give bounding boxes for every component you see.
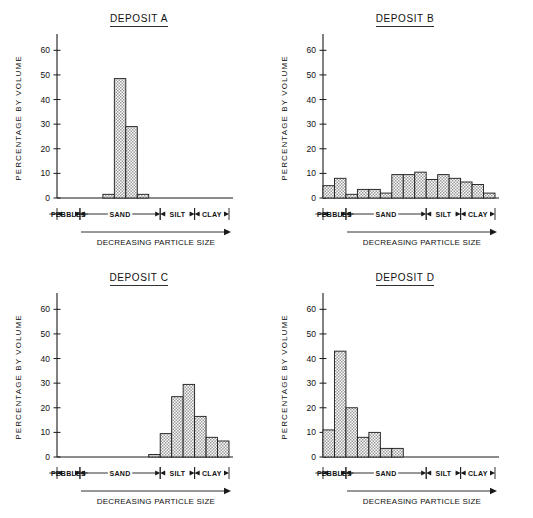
- bar: [461, 182, 472, 198]
- y-axis-tick-label: 10: [41, 168, 51, 178]
- decreasing-particle-size-arrow: [81, 488, 231, 494]
- category-label-silt: SILT: [169, 470, 185, 477]
- bar: [334, 351, 345, 457]
- chart-panel-deposit-d: DEPOSIT D0102030405060PERCENTAGE BY VOLU…: [266, 259, 532, 518]
- chart-svg: DEPOSIT B0102030405060PERCENTAGE BY VOLU…: [266, 0, 532, 259]
- bar: [334, 178, 345, 198]
- bar-series: [323, 172, 495, 198]
- category-label-silt: SILT: [169, 211, 185, 218]
- category-axis: PEBBLESSANDSILTCLAY: [315, 467, 495, 479]
- bar: [346, 194, 357, 198]
- chart-title: DEPOSIT C: [109, 272, 168, 283]
- y-axis-tick-label: 20: [41, 144, 51, 154]
- bar: [137, 194, 148, 198]
- chart-panel-deposit-c: DEPOSIT C0102030405060PERCENTAGE BY VOLU…: [0, 259, 266, 518]
- chart-title: DEPOSIT D: [375, 272, 434, 283]
- y-axis-label: PERCENTAGE BY VOLUME: [14, 314, 23, 439]
- y-axis-tick-label: 40: [307, 95, 317, 105]
- y-axis-tick-label: 10: [307, 427, 317, 437]
- y-axis-tick-label: 40: [41, 354, 51, 364]
- y-axis-tick-label: 0: [45, 452, 50, 462]
- y-axis-tick-label: 20: [41, 403, 51, 413]
- y-axis-tick-label: 60: [307, 45, 317, 55]
- bar: [346, 408, 357, 457]
- bar-series: [149, 384, 229, 457]
- category-label-clay: CLAY: [468, 470, 488, 477]
- bar: [195, 416, 206, 457]
- category-label-clay: CLAY: [468, 211, 488, 218]
- bar: [323, 186, 334, 198]
- y-axis-tick-label: 50: [307, 70, 317, 80]
- decreasing-particle-size-arrow: [347, 488, 497, 494]
- x-axis-label: DECREASING PARTICLE SIZE: [97, 497, 215, 506]
- bar: [380, 448, 391, 457]
- bar: [160, 434, 171, 457]
- y-axis-tick-label: 0: [45, 193, 50, 203]
- y-axis-tick-label: 50: [41, 70, 51, 80]
- bar: [357, 437, 368, 457]
- bar: [403, 175, 414, 198]
- bar: [369, 189, 380, 198]
- bar: [449, 178, 460, 198]
- category-label-pebbles: PEBBLES: [51, 211, 86, 218]
- y-axis-tick-label: 50: [307, 329, 317, 339]
- y-axis-tick-label: 20: [307, 144, 317, 154]
- bar: [484, 193, 495, 198]
- category-axis: PEBBLESSANDSILTCLAY: [315, 208, 495, 220]
- bar: [472, 184, 483, 198]
- y-axis-tick-label: 40: [307, 354, 317, 364]
- bar: [392, 448, 403, 457]
- chart-panel-deposit-b: DEPOSIT B0102030405060PERCENTAGE BY VOLU…: [266, 0, 532, 259]
- y-axis-tick-label: 30: [41, 119, 51, 129]
- chart-svg: DEPOSIT D0102030405060PERCENTAGE BY VOLU…: [266, 259, 532, 518]
- category-label-sand: SAND: [110, 470, 131, 477]
- bar: [438, 175, 449, 198]
- category-label-pebbles: PEBBLES: [51, 470, 86, 477]
- y-axis-label: PERCENTAGE BY VOLUME: [280, 314, 289, 439]
- y-axis-tick-label: 10: [307, 168, 317, 178]
- y-axis-tick-label: 10: [41, 427, 51, 437]
- y-axis-tick-label: 60: [41, 45, 51, 55]
- figure-page: DEPOSIT A0102030405060PERCENTAGE BY VOLU…: [0, 0, 533, 518]
- x-axis-label: DECREASING PARTICLE SIZE: [97, 238, 215, 247]
- y-axis-tick-label: 30: [307, 119, 317, 129]
- y-axis-tick-label: 40: [41, 95, 51, 105]
- chart-panel-deposit-a: DEPOSIT A0102030405060PERCENTAGE BY VOLU…: [0, 0, 266, 259]
- y-axis-tick-label: 60: [41, 304, 51, 314]
- y-axis-tick-label: 30: [41, 378, 51, 388]
- bar: [380, 193, 391, 198]
- y-axis-tick-label: 20: [307, 403, 317, 413]
- category-label-clay: CLAY: [202, 470, 222, 477]
- category-label-pebbles: PEBBLES: [317, 470, 352, 477]
- y-axis-tick-label: 30: [307, 378, 317, 388]
- bar: [369, 432, 380, 457]
- y-axis-tick-label: 0: [311, 452, 316, 462]
- category-axis: PEBBLESSANDSILTCLAY: [49, 208, 229, 220]
- bar: [415, 172, 426, 198]
- bar: [183, 384, 194, 457]
- decreasing-particle-size-arrow: [347, 229, 497, 235]
- category-label-clay: CLAY: [202, 211, 222, 218]
- bar: [392, 175, 403, 198]
- category-label-sand: SAND: [376, 211, 397, 218]
- bar: [323, 430, 334, 457]
- bar-series: [323, 351, 403, 457]
- x-axis-label: DECREASING PARTICLE SIZE: [363, 238, 481, 247]
- y-axis-tick-label: 0: [311, 193, 316, 203]
- bar: [149, 455, 160, 457]
- bar: [357, 189, 368, 198]
- y-axis-label: PERCENTAGE BY VOLUME: [14, 55, 23, 180]
- bar: [103, 194, 114, 198]
- bar: [206, 437, 217, 457]
- y-axis-label: PERCENTAGE BY VOLUME: [280, 55, 289, 180]
- bar-series: [103, 79, 149, 198]
- chart-title: DEPOSIT A: [110, 13, 168, 24]
- decreasing-particle-size-arrow: [81, 229, 231, 235]
- x-axis-label: DECREASING PARTICLE SIZE: [363, 497, 481, 506]
- category-label-silt: SILT: [435, 470, 451, 477]
- bar: [218, 441, 229, 457]
- bar: [114, 79, 125, 198]
- y-axis-tick-label: 60: [307, 304, 317, 314]
- y-axis-tick-label: 50: [41, 329, 51, 339]
- bar: [172, 397, 183, 457]
